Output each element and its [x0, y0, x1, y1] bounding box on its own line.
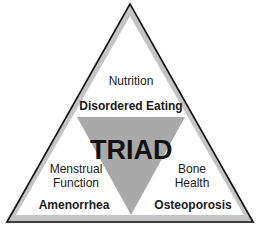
right-label-line2: Health [170, 177, 214, 191]
right-condition-osteoporosis: Osteoporosis [152, 199, 234, 213]
left-label-line2: Function [46, 177, 106, 191]
top-label-nutrition: Nutrition [100, 75, 162, 89]
center-label-triad: TRIAD [90, 135, 170, 166]
left-condition-amenorrhea: Amenorrhea [36, 199, 112, 213]
left-label-line1: Menstrual [46, 163, 106, 177]
right-label-line1: Bone [170, 163, 214, 177]
top-condition-disordered-eating: Disordered Eating [70, 100, 192, 114]
